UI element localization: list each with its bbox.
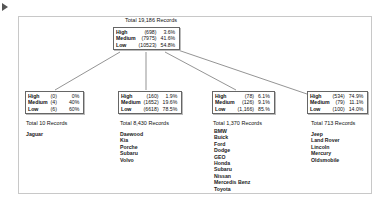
- node-row-low: Low(6618)78.5%: [121, 106, 179, 112]
- edge-root-child-4: [172, 48, 307, 94]
- node-row-medium: Medium(126)9.1%: [215, 99, 272, 105]
- child-node-4[interactable]: High(534)74.9% Medium(79)11.1% Low(100)1…: [307, 91, 368, 114]
- root-node[interactable]: High(698)3.6% Medium(7975)41.6% Low(1052…: [113, 27, 180, 50]
- child-2-total: Total 8,430 Records: [120, 120, 169, 126]
- child-1-total: Total 10 Records: [26, 120, 67, 126]
- node-row-low: Low(6)60%: [28, 106, 81, 112]
- root-total: Total 19,186 Records: [125, 17, 177, 23]
- node-row-low: Low(1,166)85.%: [215, 106, 272, 112]
- child-4-list: Jeep Land Rover Lincoln Mercury Oldsmobi…: [311, 131, 340, 163]
- node-row-low: Low(100)14.0%: [310, 106, 365, 112]
- child-3-list: BMW Buick Ford Dodge GEO Honda Subaru Ni…: [214, 128, 250, 192]
- child-4-total: Total 713 Records: [311, 120, 355, 126]
- list-item: Mercedis Benz: [214, 179, 250, 185]
- node-row-medium: Medium(79)11.1%: [310, 99, 365, 105]
- list-item: Oldsmobile: [311, 157, 340, 163]
- child-node-3[interactable]: High(78)6.1% Medium(126)9.1% Low(1,166)8…: [212, 91, 275, 114]
- child-node-1[interactable]: High(0)0% Medium(4)40% Low(6)60%: [25, 91, 84, 114]
- child-3-total: Total 1,370 Records: [213, 120, 262, 126]
- root-row-low: Low(10523)54.8%: [116, 42, 177, 48]
- node-row-medium: Medium(4)40%: [28, 99, 81, 105]
- list-item: Jaguar: [26, 131, 43, 137]
- child-node-2[interactable]: High(160)1.9% Medium(1652)19.6% Low(6618…: [118, 91, 182, 114]
- edge-root-child-1: [55, 52, 120, 90]
- list-item: Land Rover: [311, 137, 340, 143]
- list-item: Toyota: [214, 186, 250, 192]
- child-1-list: Jaguar: [26, 131, 43, 137]
- list-item: Volvo: [120, 157, 143, 163]
- node-row-medium: Medium(1652)19.6%: [121, 99, 179, 105]
- root-row-medium: Medium(7975)41.6%: [116, 35, 177, 41]
- child-2-list: Daewood Kia Porche Subaru Volvo: [120, 131, 143, 163]
